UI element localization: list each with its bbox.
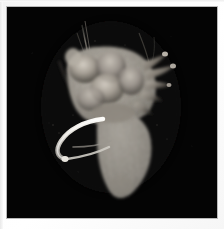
photo-canvas — [7, 7, 217, 218]
ventricle-apex — [109, 175, 133, 195]
margin-shade-left — [0, 0, 3, 229]
margin-shade-top — [0, 0, 224, 2]
specimen-photograph-page: Grayscale volumetric rendering of an exc… — [0, 0, 224, 229]
shoulder-nub — [65, 48, 81, 66]
specimen-render — [7, 7, 217, 218]
